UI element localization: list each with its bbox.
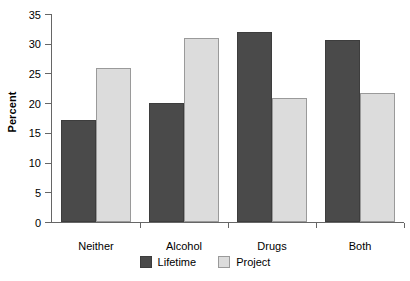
y-axis-tick-label: 10 [29,157,41,169]
x-axis-tick-mark [228,223,229,228]
bar-neither-project [96,68,131,223]
bar-drugs-project [272,98,307,222]
y-axis-tick-mark [45,222,51,223]
bar-alcohol-project [184,38,219,222]
legend-swatch-project [218,256,230,268]
y-axis-tick-mark [45,14,51,15]
y-axis-tick-mark [45,192,51,193]
x-axis-tick-mark [140,223,141,228]
bar-alcohol-lifetime [149,103,184,222]
chart-legend: LifetimeProject [0,256,410,268]
x-axis-label-both: Both [349,240,372,252]
y-axis-title: Percent [0,0,24,224]
x-axis-tick-mark [316,223,317,228]
bar-both-lifetime [325,40,360,222]
y-axis-tick-label: 25 [29,68,41,80]
x-axis-label-alcohol: Alcohol [166,240,202,252]
y-axis-tick-mark [45,73,51,74]
y-axis-title-label: Percent [6,91,18,132]
y-axis-line [51,14,52,223]
x-axis-label-neither: Neither [78,240,113,252]
legend-label-lifetime: Lifetime [158,256,197,268]
bar-drugs-lifetime [237,32,272,222]
y-axis-tick-label: 0 [35,217,41,229]
y-axis-tick-label: 30 [29,38,41,50]
y-axis-tick-mark [45,163,51,164]
bar-both-project [360,93,395,222]
x-axis-label-drugs: Drugs [257,240,286,252]
y-axis-tick-mark [45,103,51,104]
bar-neither-lifetime [61,120,96,222]
legend-entry-project: Project [218,256,270,268]
legend-entry-lifetime: Lifetime [140,256,197,268]
y-axis-tick-label: 35 [29,9,41,21]
legend-swatch-lifetime [140,256,152,268]
grouped-bar-chart: Percent 05101520253035 NeitherAlcoholDru… [0,0,410,281]
y-axis-tick-label: 20 [29,98,41,110]
y-axis-tick-mark [45,133,51,134]
y-axis-tick-mark [45,44,51,45]
y-axis-tick-label: 15 [29,127,41,139]
plot-area: 05101520253035 NeitherAlcoholDrugsBoth [52,14,404,222]
x-axis-tick-mark [404,223,405,228]
y-axis-tick-label: 5 [35,187,41,199]
legend-label-project: Project [236,256,270,268]
